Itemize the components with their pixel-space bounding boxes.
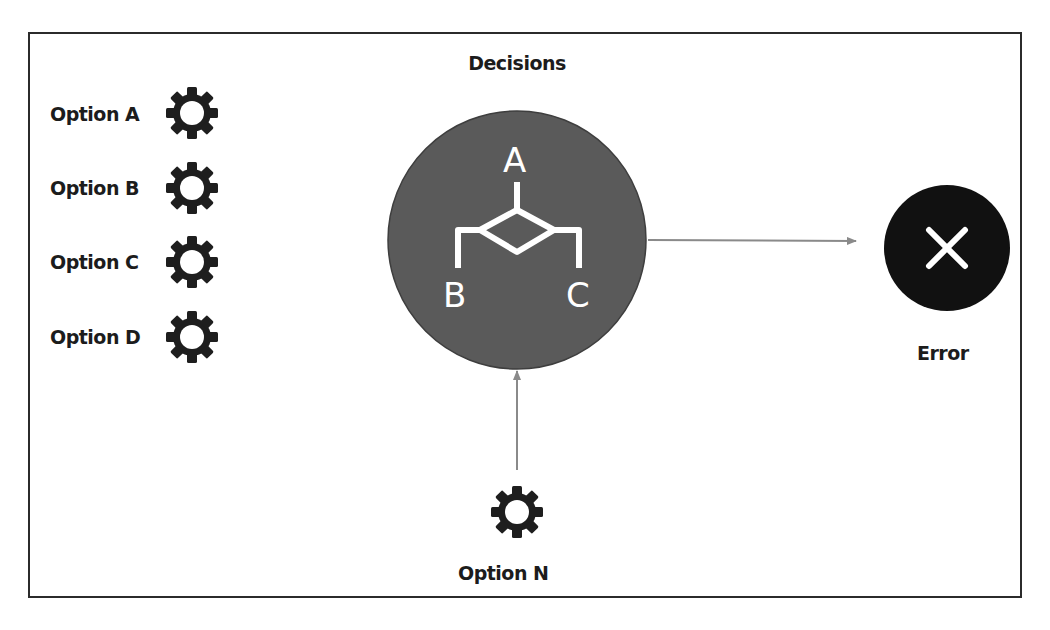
option-n-gear-icon bbox=[491, 486, 543, 538]
connector-decision-to-error bbox=[648, 240, 856, 241]
branch-b-label: B bbox=[443, 275, 466, 315]
branch-a-label: A bbox=[503, 140, 526, 180]
branch-c-label: C bbox=[566, 275, 589, 315]
option-n-label: Option N bbox=[458, 562, 548, 584]
error-label: Error bbox=[917, 342, 969, 364]
diagram-canvas bbox=[0, 0, 1050, 630]
error-node bbox=[884, 185, 1010, 311]
